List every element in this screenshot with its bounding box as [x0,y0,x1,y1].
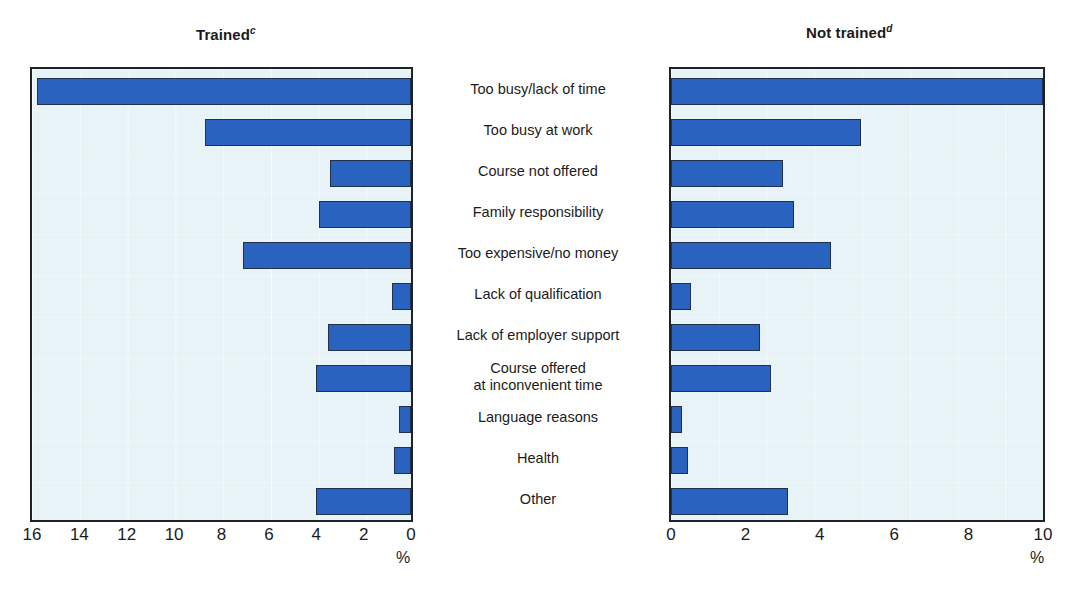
category-label: Lack of qualification [424,286,652,303]
x-axis-tick-label: 2 [741,525,750,545]
bar [671,488,788,515]
category-label: Too expensive/no money [424,245,652,262]
category-label: Too busy/lack of time [424,81,652,98]
category-label: Lack of employer support [424,327,652,344]
bar [243,242,411,269]
figure: Trainedc Not trainedd 1614121086420 0246… [0,0,1074,600]
panel-title-not-trained-superscript: d [886,23,892,34]
bar [671,447,688,474]
x-axis-tick-label: 2 [359,525,368,545]
bar [671,78,1043,105]
x-axis-tick-label: 6 [264,525,273,545]
panel-title-not-trained-text: Not trained [806,24,886,41]
category-label: Too busy at work [424,122,652,139]
category-label: Language reasons [424,409,652,426]
bar [671,283,691,310]
x-axis-tick-label: 4 [815,525,824,545]
x-axis-tick-label: 6 [889,525,898,545]
x-axis-tick-label: 8 [217,525,226,545]
plot-area-not-trained [669,67,1045,522]
bar [205,119,411,146]
bar [671,160,783,187]
category-label: Other [424,491,652,508]
bar [328,324,411,351]
panel-title-trained-superscript: c [250,25,256,36]
bar [671,119,861,146]
bar [319,201,411,228]
bar [316,365,411,392]
bar [394,447,411,474]
bar [316,488,411,515]
bar [671,242,831,269]
category-label: Course not offered [424,163,652,180]
bar [671,406,682,433]
bar [671,201,794,228]
x-axis-not-trained: 0246810 [669,525,1045,551]
bar [671,324,760,351]
x-axis-trained: 1614121086420 [30,525,413,551]
panel-title-trained: Trainedc [196,25,256,43]
x-axis-tick-label: 10 [165,525,184,545]
category-label: Family responsibility [424,204,652,221]
category-label: Health [424,450,652,467]
category-label-column: Too busy/lack of timeToo busy at workCou… [424,67,652,522]
bar [37,78,411,105]
x-axis-tick-label: 16 [23,525,42,545]
x-axis-tick-label: 8 [964,525,973,545]
x-axis-tick-label: 14 [70,525,89,545]
x-axis-tick-label: 0 [406,525,415,545]
x-axis-tick-label: 10 [1034,525,1053,545]
bar [399,406,411,433]
bar [671,365,771,392]
bar [392,283,411,310]
plot-area-trained [30,67,413,522]
x-axis-unit-trained: % [396,549,410,567]
category-label: Course offered at inconvenient time [424,360,652,394]
x-axis-tick-label: 12 [117,525,136,545]
x-axis-tick-label: 0 [666,525,675,545]
x-axis-tick-label: 4 [312,525,321,545]
x-axis-unit-not-trained: % [1030,549,1044,567]
panel-title-not-trained: Not trainedd [806,23,892,41]
bar [330,160,411,187]
panel-title-trained-text: Trained [196,26,250,43]
